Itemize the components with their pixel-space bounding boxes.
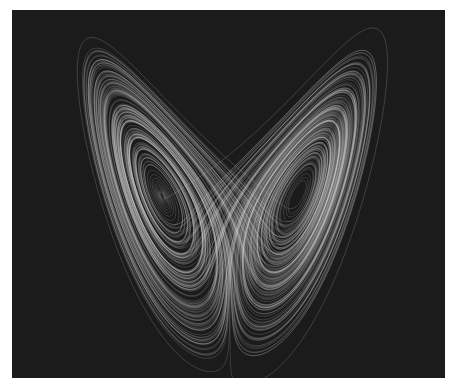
attractor-panel: Lorenz attractor bbox=[12, 10, 445, 378]
attractor-trace bbox=[77, 28, 387, 378]
lorenz-attractor-plot bbox=[12, 10, 445, 378]
